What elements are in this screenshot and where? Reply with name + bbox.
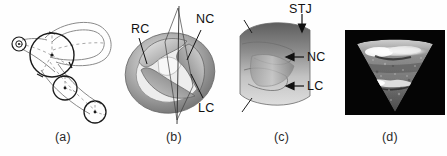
- panel-a-drawing: [0, 0, 120, 130]
- label-nc-c: NC: [307, 50, 326, 64]
- caption-c: (c): [274, 130, 289, 144]
- label-nc-b: NC: [196, 12, 215, 26]
- panel-c-rendering: [232, 0, 332, 130]
- ultrasound-frame: [345, 30, 445, 115]
- caption-d: (d): [382, 130, 398, 144]
- figure-container: RC NC LC: [0, 0, 447, 156]
- cross-section-marker-2: [30, 32, 74, 77]
- label-rc: RC: [131, 22, 150, 36]
- label-lc-c: LC: [307, 79, 324, 93]
- cross-section-marker-1: [12, 37, 26, 51]
- ultrasound-image: [345, 30, 445, 115]
- label-lc-b: LC: [198, 101, 215, 115]
- caption-b: (b): [166, 130, 182, 144]
- label-stj: STJ: [289, 2, 312, 16]
- caption-a: (a): [55, 130, 71, 144]
